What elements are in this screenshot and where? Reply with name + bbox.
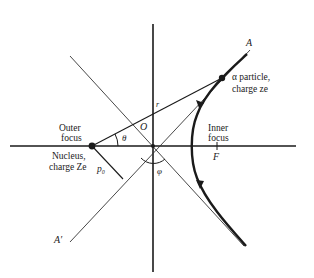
- origin-label: O: [140, 121, 147, 132]
- inner-focus-label-2: focus: [208, 133, 229, 143]
- origin-dot: [151, 144, 155, 148]
- outer-focus-label-2: focus: [61, 133, 82, 143]
- inner-focus-label-1: Inner: [208, 123, 229, 133]
- radius-label: r: [156, 100, 160, 109]
- particle-dot: [219, 75, 225, 81]
- focus-f-label: F: [212, 151, 220, 162]
- particle-label-1: α particle,: [232, 72, 270, 82]
- nucleus-label-1: Nucleus,: [52, 151, 86, 161]
- asymptote-a-label: A: [245, 37, 253, 48]
- nucleus-dot: [89, 143, 96, 150]
- arrow-lower-icon: [196, 180, 204, 189]
- nucleus-label-2: charge Ze: [49, 162, 87, 172]
- impact-parameter-line: [92, 146, 123, 179]
- theta-arc: [115, 134, 118, 146]
- impact-parameter-label: p₀: [96, 164, 105, 174]
- phi-label: φ: [157, 166, 162, 176]
- radius-line: [92, 78, 222, 146]
- asymptote-a-prime-label: A′: [53, 234, 63, 245]
- outer-focus-label-1: Outer: [59, 123, 81, 133]
- theta-label: θ: [122, 133, 127, 143]
- particle-label-2: charge ze: [232, 84, 268, 94]
- scattering-diagram: A A′ α particle, charge ze Outer focus N…: [0, 0, 314, 278]
